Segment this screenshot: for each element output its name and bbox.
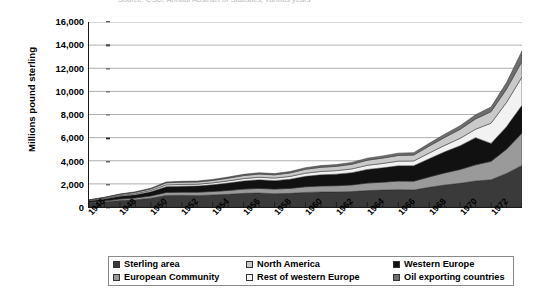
legend-label: European Community [124,273,219,282]
y-axis-tick-label: 14,000 [26,40,84,50]
y-axis-tick-label: 10,000 [26,87,84,97]
y-axis-tick-label: 4,000 [26,157,84,167]
legend-item: Sterling area [113,260,246,269]
legend-item: Western Europe [393,260,509,269]
legend-item: North America [246,260,393,269]
legend-label: Rest of western Europe [257,273,360,282]
legend-label: Oil exporting countries [404,273,505,282]
legend-item: Oil exporting countries [393,273,509,282]
source-caption: Source: CSO, Annual Abstract of Statisti… [118,0,311,4]
legend-label: Western Europe [404,260,474,269]
stacked-area-chart [89,22,522,207]
legend-swatch-western-europe [393,261,400,268]
x-axis-tick-labels: 1946194819501952195419561958196019621964… [88,210,522,252]
chart-legend: Sterling area North America Western Euro… [108,256,514,286]
chart-page: Source: CSO, Annual Abstract of Statisti… [0,0,552,303]
y-axis-tick-labels: 02,0004,0006,0008,00010,00012,00014,0001… [22,22,84,208]
y-axis-tick-label: 2,000 [26,180,84,190]
plot-area [88,22,522,208]
legend-swatch-rest-of-western-europe [246,274,253,281]
y-axis-tick-label: 6,000 [26,133,84,143]
legend-swatch-sterling-area [113,261,120,268]
y-axis-tick-label: 8,000 [26,110,84,120]
legend-item: European Community [113,273,246,282]
y-axis-tick-label: 16,000 [26,17,84,27]
legend-label: North America [257,260,320,269]
legend-swatch-north-america [246,261,253,268]
y-axis-tick-label: 0 [26,203,84,213]
y-axis-tick-label: 12,000 [26,64,84,74]
legend-swatch-european-community [113,274,120,281]
legend-item: Rest of western Europe [246,273,393,282]
legend-label: Sterling area [124,260,180,269]
legend-swatch-oil-exporting-countries [393,274,400,281]
